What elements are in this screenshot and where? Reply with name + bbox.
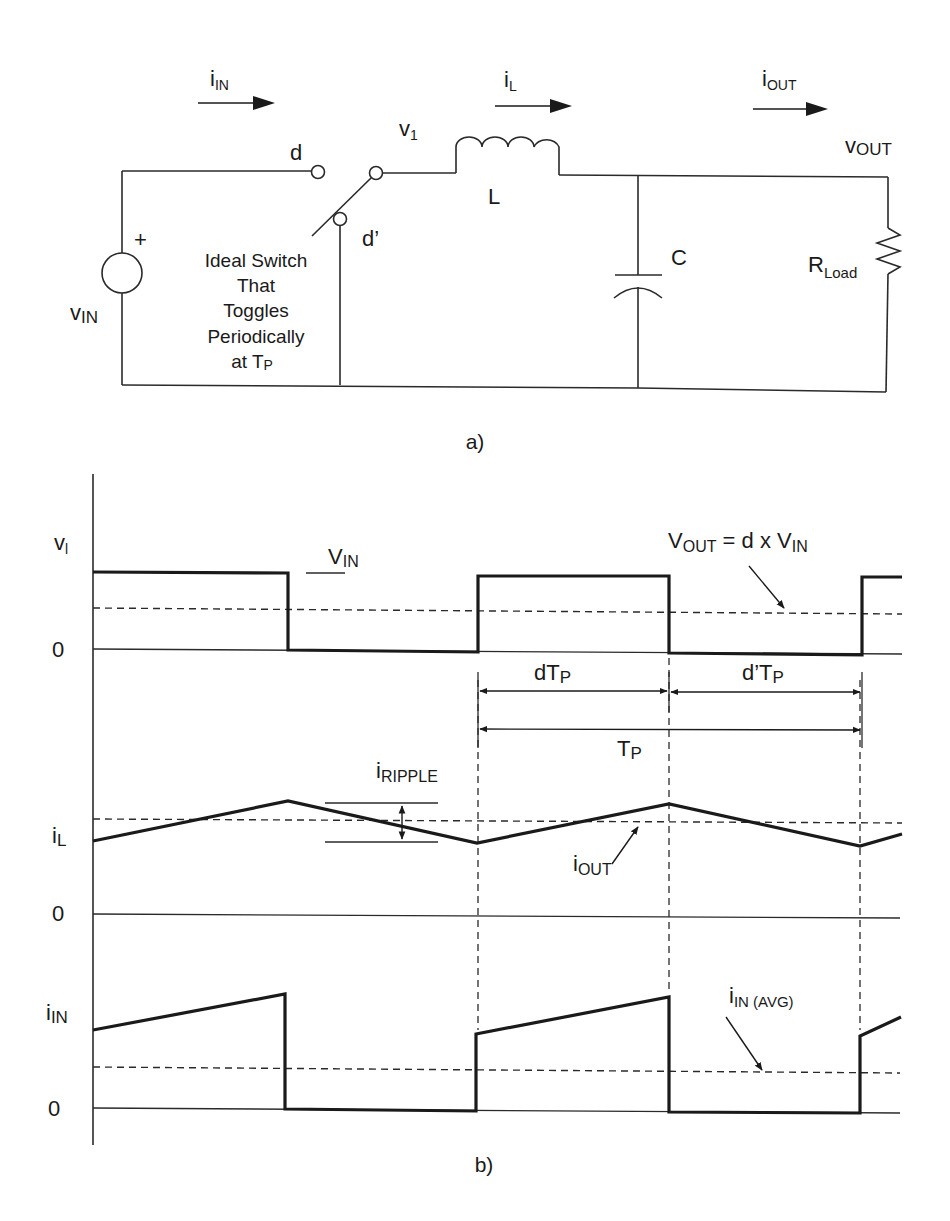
label-dprime: d’ xyxy=(362,226,379,251)
iin-waveform xyxy=(93,994,901,1113)
current-arrow-iin: iIN xyxy=(198,66,275,110)
label-l: L xyxy=(488,184,500,209)
label-d: d xyxy=(290,140,302,165)
vin-level-label: VIN xyxy=(328,544,359,570)
inductor-coil-icon xyxy=(456,137,559,175)
inductor: L xyxy=(456,137,559,209)
label-iout: iOUT xyxy=(762,66,797,93)
il-waveform xyxy=(93,801,902,846)
timing-dimensions: dTP d’TP TP xyxy=(478,660,862,763)
current-arrow-il: iL xyxy=(495,67,572,113)
label-c: C xyxy=(671,245,687,270)
capacitor: C xyxy=(614,175,687,388)
arrow-head-icon xyxy=(550,99,572,113)
iout-label: iOUT xyxy=(573,851,612,878)
il-axis-label: iL xyxy=(52,823,66,850)
iout-pointer-arrow-icon xyxy=(612,827,638,864)
resistor-zigzag-icon xyxy=(877,228,900,274)
tp-dimension-arrow-icon xyxy=(480,729,860,730)
arrow-head-icon xyxy=(253,96,275,110)
caption-a: a) xyxy=(466,430,485,453)
label-v1: v1 xyxy=(399,116,418,143)
label-il: iL xyxy=(504,67,517,94)
source-polarity: + xyxy=(134,227,147,252)
terminal-dprime-icon xyxy=(334,213,347,226)
iin-avg-pointer-arrow-icon xyxy=(726,1017,762,1070)
iin-avg-label: iIN (AVG) xyxy=(729,983,794,1010)
iin-zero-label: 0 xyxy=(48,1096,60,1121)
svg-text:at TP: at TP xyxy=(231,351,273,373)
label-vin: vIN xyxy=(70,300,98,327)
terminal-common-icon xyxy=(370,167,383,180)
iin-average-line xyxy=(93,1067,900,1073)
iin-axis-label: iIN xyxy=(46,1000,68,1027)
dtp-label: dTP xyxy=(534,660,571,687)
vout-equation-annotation: VOUT = d x VIN xyxy=(668,528,808,608)
terminal-d-icon xyxy=(312,166,325,179)
label-vout: vOUT xyxy=(845,133,892,159)
source-circle-icon xyxy=(102,253,142,293)
il-zero-line xyxy=(93,914,900,918)
buck-converter-figure: iIN iL iOUT + vIN d xyxy=(0,0,950,1221)
vout-equation: VOUT = d x VIN xyxy=(668,528,808,555)
tp-label: TP xyxy=(617,736,642,763)
il-zero-label: 0 xyxy=(52,901,64,926)
switch-description: Ideal Switch That Toggles Periodically a… xyxy=(205,250,307,373)
circuit-schematic: iIN iL iOUT + vIN d xyxy=(70,66,900,453)
svg-text:Ideal Switch: Ideal Switch xyxy=(205,250,307,271)
v1-average-line xyxy=(93,608,902,614)
label-iin: iIN xyxy=(210,66,229,93)
v1-axis-label: vl xyxy=(54,530,68,557)
ideal-switch: d d’ v1 Ideal Switch That Toggles Period… xyxy=(205,116,418,385)
ripple-label: iRIPPLE xyxy=(376,758,438,785)
svg-text:Toggles: Toggles xyxy=(223,300,289,321)
label-rload: RLoad xyxy=(808,252,857,281)
svg-text:That: That xyxy=(237,275,276,296)
waveform-plots: vl 0 VIN VOUT = d x VIN dTP d’TP TP xyxy=(46,474,902,1176)
vout-pointer-arrow-icon xyxy=(749,566,784,608)
svg-text:Periodically: Periodically xyxy=(207,326,305,347)
caption-b: b) xyxy=(475,1153,494,1176)
dprimetp-label: d’TP xyxy=(742,660,784,687)
trace-il: iL 0 iRIPPLE iOUT xyxy=(52,758,902,926)
il-average-line xyxy=(93,819,902,823)
voltage-source: + vIN xyxy=(70,171,147,385)
load-resistor: RLoad xyxy=(808,177,900,392)
v1-zero-label: 0 xyxy=(52,637,64,662)
trace-iin: iIN 0 iIN (AVG) xyxy=(46,983,901,1121)
current-arrow-iout: iOUT xyxy=(753,66,828,116)
arrow-head-icon xyxy=(806,102,828,116)
